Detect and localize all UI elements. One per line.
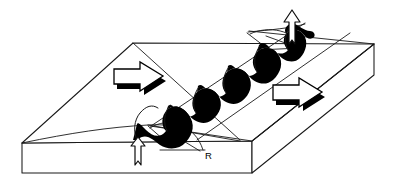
ridge-axis-label: R [205,150,212,161]
block-diagram-svg: R [0,0,394,182]
figure-container: R [0,0,394,182]
